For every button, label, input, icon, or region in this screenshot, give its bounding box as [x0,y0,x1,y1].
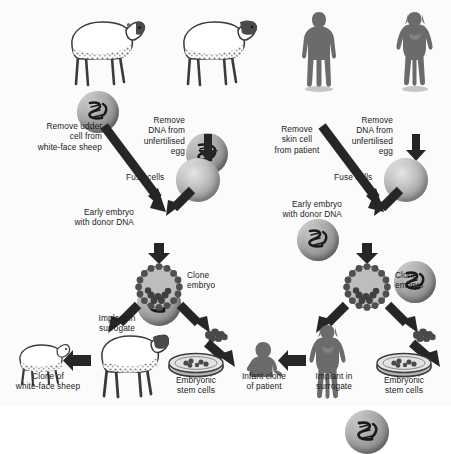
human-clone-embryo-label: Clone embryo [395,270,445,291]
sheep-clone-embryo-label: Clone embryo [187,270,237,291]
sheep-egg-donor-icon [168,12,260,94]
sheep-early-embryo-label: Early embryo with donor DNA [58,207,134,228]
sheep-surrogate-icon [89,328,169,404]
sheep-donor-icon [56,12,148,94]
human-male-donor-icon [297,10,341,96]
human-stem-cells-label: Embryonic stem cells [371,375,437,396]
human-surrogate-icon [305,323,351,409]
human-implant-label: Implant in surrogate [303,371,365,392]
human-egg-arrow [370,188,404,220]
dna-helix-icon [297,219,339,261]
sheep-egg-arrow [162,188,196,220]
human-early-embryo-icon [345,410,389,454]
human-female-egg-donor-icon [392,10,438,96]
human-early-embryo-label: Early embryo with donor DNA [266,199,342,220]
human-clone-label: Infant clone of patient [228,371,300,392]
dna-helix-icon [345,410,389,454]
sheep-stem-cells-label: Embryonic stem cells [163,375,229,396]
sheep-clone-label: Clone of white-face sheep [5,371,91,392]
human-donor-cell-icon [297,219,339,261]
sheep-donor-cell-label: Remove udder cell from white-face sheep [12,121,102,152]
